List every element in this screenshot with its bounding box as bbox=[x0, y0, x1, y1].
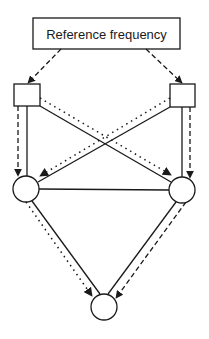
left-circle-to-right-circle-solid bbox=[39, 189, 169, 190]
right-box-node bbox=[170, 84, 195, 107]
right-box-to-left-circle-solid bbox=[38, 107, 170, 182]
left-circle-node bbox=[13, 176, 39, 202]
reference-frequency-box: Reference frequency bbox=[33, 18, 180, 49]
reference-frequency-label: Reference frequency bbox=[46, 27, 167, 42]
right-circle-to-bottom-solid bbox=[108, 202, 176, 294]
right-circle-to-bottom-dashed bbox=[116, 202, 186, 298]
bottom-circle-node bbox=[91, 294, 117, 320]
left-circle-to-bottom-dotted bbox=[26, 202, 92, 296]
right-circle-node bbox=[169, 177, 195, 203]
ref-to-right-box-dashed bbox=[146, 49, 182, 83]
network-diagram: Reference frequency bbox=[0, 0, 209, 339]
left-circle-to-bottom-solid bbox=[32, 201, 100, 294]
left-box-node bbox=[14, 84, 40, 106]
ref-to-left-box-dashed bbox=[28, 49, 61, 83]
left-box-to-right-circle-dotted bbox=[40, 98, 171, 175]
